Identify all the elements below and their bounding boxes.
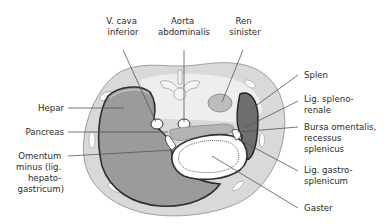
anatomy-cross-section-diagram: V. cava inferior Aorta abdominalis Ren s…: [0, 0, 387, 224]
label-ren-sinister: Ren sinister: [229, 16, 261, 37]
vena-cava-inferior: [151, 119, 163, 129]
fat-pad: [89, 132, 95, 148]
label-splen: Splen: [304, 70, 328, 80]
label-lig-splenorenale: Lig. spleno- renale: [304, 94, 356, 115]
label-pancreas: Pancreas: [25, 127, 64, 137]
label-gaster: Gaster: [304, 203, 333, 213]
label-omentum-minus: Omentum minus (lig. hepato- gastricum): [16, 151, 64, 194]
label-bursa-omentalis: Bursa omentalis, recessus splenicus: [304, 122, 379, 154]
kidney-left: [208, 94, 232, 112]
label-lig-gastrosplenicum: Lig. gastro- splenicum: [304, 165, 355, 186]
label-hepar: Hepar: [38, 103, 64, 113]
label-aorta-abdominalis: Aorta abdominalis: [158, 16, 211, 37]
label-vena-cava-inferior: V. cava inferior: [106, 16, 139, 37]
fat-pad: [260, 133, 265, 147]
